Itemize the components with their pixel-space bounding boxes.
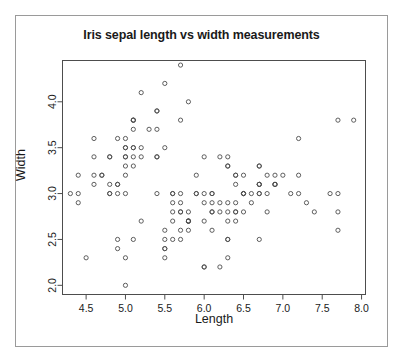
- data-point: [312, 210, 316, 214]
- data-points: [68, 63, 356, 287]
- data-point: [92, 155, 96, 159]
- x-axis-label: Length: [62, 312, 366, 326]
- data-point: [147, 127, 151, 131]
- data-point: [171, 219, 175, 223]
- data-point: [226, 201, 230, 205]
- x-axis: 4.55.05.56.06.57.07.58.0: [79, 295, 369, 314]
- data-point: [234, 201, 238, 205]
- data-point: [328, 191, 332, 195]
- data-point: [249, 201, 253, 205]
- data-point: [123, 136, 127, 140]
- data-point: [210, 191, 214, 195]
- data-point: [123, 164, 127, 168]
- data-point: [234, 210, 238, 214]
- data-point: [155, 191, 159, 195]
- data-point: [123, 283, 127, 287]
- data-point: [123, 173, 127, 177]
- data-point: [336, 228, 340, 232]
- y-tick-label: 2.0: [46, 278, 58, 293]
- data-point: [273, 182, 277, 186]
- data-point: [234, 219, 238, 223]
- data-point: [108, 182, 112, 186]
- data-point: [210, 228, 214, 232]
- data-point: [178, 118, 182, 122]
- data-point: [226, 219, 230, 223]
- data-point: [186, 100, 190, 104]
- data-point: [115, 191, 119, 195]
- data-point: [123, 146, 127, 150]
- data-point: [257, 191, 261, 195]
- data-point: [178, 191, 182, 195]
- data-point: [171, 237, 175, 241]
- data-point: [186, 228, 190, 232]
- data-point: [194, 191, 198, 195]
- data-point: [131, 155, 135, 159]
- data-point: [163, 247, 167, 251]
- data-point: [108, 155, 112, 159]
- data-point: [226, 210, 230, 214]
- data-point: [226, 164, 230, 168]
- data-point: [68, 191, 72, 195]
- data-point: [265, 191, 269, 195]
- data-point: [241, 173, 245, 177]
- data-point: [257, 164, 261, 168]
- y-tick-label: 4.0: [46, 94, 58, 109]
- data-point: [241, 191, 245, 195]
- data-point: [265, 210, 269, 214]
- data-point: [92, 173, 96, 177]
- data-point: [100, 173, 104, 177]
- data-point: [131, 164, 135, 168]
- data-point: [155, 127, 159, 131]
- data-point: [131, 237, 135, 241]
- data-point: [115, 247, 119, 251]
- y-tick-label: 2.5: [46, 232, 58, 247]
- data-point: [171, 210, 175, 214]
- data-point: [186, 219, 190, 223]
- data-point: [92, 136, 96, 140]
- data-point: [139, 146, 143, 150]
- data-point: [178, 63, 182, 67]
- data-point: [139, 91, 143, 95]
- data-point: [257, 237, 261, 241]
- data-point: [289, 191, 293, 195]
- data-point: [171, 201, 175, 205]
- data-point: [155, 109, 159, 113]
- y-axis: 2.02.53.03.54.0: [46, 94, 62, 292]
- data-point: [139, 155, 143, 159]
- data-point: [178, 228, 182, 232]
- data-point: [178, 237, 182, 241]
- data-point: [336, 191, 340, 195]
- figure-root: Iris sepal length vs width measurements …: [0, 0, 402, 360]
- data-point: [76, 191, 80, 195]
- data-point: [202, 191, 206, 195]
- data-point: [139, 219, 143, 223]
- data-point: [84, 256, 88, 260]
- data-point: [218, 201, 222, 205]
- data-point: [76, 173, 80, 177]
- data-point: [123, 155, 127, 159]
- data-point: [163, 256, 167, 260]
- scatter-plot-canvas: 4.55.05.56.06.57.07.58.0 2.02.53.03.54.0: [0, 0, 402, 360]
- data-point: [123, 256, 127, 260]
- data-point: [226, 155, 230, 159]
- data-point: [257, 182, 261, 186]
- data-point: [352, 118, 356, 122]
- data-point: [171, 191, 175, 195]
- data-point: [131, 146, 135, 150]
- data-point: [186, 210, 190, 214]
- data-point: [297, 173, 301, 177]
- data-point: [178, 210, 182, 214]
- data-point: [108, 191, 112, 195]
- data-point: [131, 127, 135, 131]
- data-point: [115, 136, 119, 140]
- y-tick-label: 3.5: [46, 140, 58, 155]
- data-point: [115, 237, 119, 241]
- data-point: [92, 182, 96, 186]
- data-point: [163, 237, 167, 241]
- data-point: [234, 182, 238, 186]
- data-point: [202, 219, 206, 223]
- data-point: [202, 155, 206, 159]
- data-point: [202, 265, 206, 269]
- data-point: [155, 155, 159, 159]
- data-point: [297, 191, 301, 195]
